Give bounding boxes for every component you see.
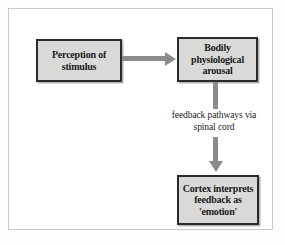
connector-perception-to-arousal-stem — [122, 56, 168, 61]
node-arousal-label: Bodily physiological arousal — [188, 42, 247, 77]
arrow-down-icon — [209, 161, 223, 172]
connector-arousal-to-label-stem — [213, 82, 218, 109]
arrow-right-icon — [165, 52, 176, 66]
node-perception-label: Perception of stimulus — [49, 49, 109, 72]
edge-label-feedback-pathways: feedback pathways via spinal cord — [149, 110, 279, 133]
diagram-canvas: Perception of stimulus Bodily physiologi… — [0, 0, 285, 245]
node-cortex-interprets-feedback[interactable]: Cortex interprets feedback as 'emotion' — [177, 175, 259, 225]
diagram-frame: Perception of stimulus Bodily physiologi… — [8, 8, 273, 230]
node-cortex-label: Cortex interprets feedback as 'emotion' — [180, 183, 257, 218]
node-bodily-physiological-arousal[interactable]: Bodily physiological arousal — [177, 37, 258, 82]
connector-label-to-cortex-stem — [213, 137, 218, 164]
node-perception-of-stimulus[interactable]: Perception of stimulus — [36, 39, 122, 82]
